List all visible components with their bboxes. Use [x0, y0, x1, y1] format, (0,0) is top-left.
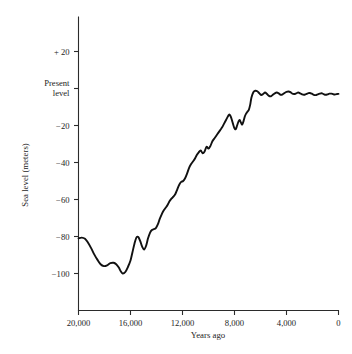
- x-axis-tick-labels: 20,00016,00012,0008,0004,0000: [67, 318, 341, 328]
- y-tick-label: level: [53, 88, 70, 98]
- y-tick-label: + 20: [54, 47, 70, 57]
- sea-level-curve: [79, 91, 339, 274]
- chart-axes: [74, 17, 339, 315]
- x-tick-label: 8,000: [225, 318, 244, 328]
- y-tick-label: Present: [44, 78, 70, 88]
- sea-level-chart-figure: + 20Presentlevel−20−40−60−80−100 20,0001…: [0, 0, 352, 354]
- x-axis-title: Years ago: [191, 330, 226, 340]
- y-tick-label: −100: [52, 269, 70, 279]
- x-tick-label: 0: [336, 318, 340, 328]
- y-axis-tick-labels: + 20Presentlevel−20−40−60−80−100: [44, 47, 70, 279]
- chart-svg: + 20Presentlevel−20−40−60−80−100 20,0001…: [0, 0, 352, 354]
- x-tick-label: 20,000: [67, 318, 91, 328]
- x-axis-ticks: [79, 311, 339, 316]
- y-axis-title: Sea level (meters): [20, 143, 30, 207]
- x-tick-label: 4,000: [277, 318, 296, 328]
- y-axis-ticks: [74, 52, 79, 274]
- y-tick-label: −80: [56, 232, 69, 242]
- x-tick-label: 12,000: [171, 318, 195, 328]
- x-tick-label: 16,000: [119, 318, 143, 328]
- y-tick-label: −40: [56, 158, 69, 168]
- y-tick-label: −60: [56, 195, 69, 205]
- y-tick-label: −20: [56, 121, 69, 131]
